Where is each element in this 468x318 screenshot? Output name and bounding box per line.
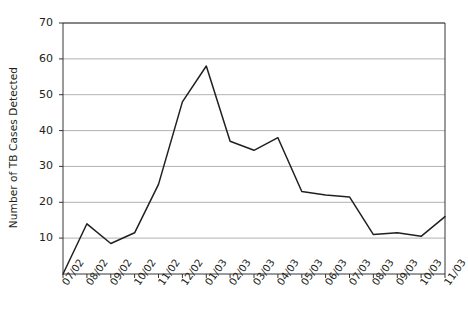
- y-tick-label-30: 30: [27, 160, 53, 172]
- y-tick-label-70: 70: [27, 17, 53, 29]
- data-series-line: [63, 66, 445, 274]
- y-tick-label-10: 10: [27, 232, 53, 244]
- series-polyline: [63, 66, 445, 274]
- gridlines-group: [63, 23, 445, 238]
- y-tick-label-40: 40: [27, 125, 53, 137]
- plot-frame: [59, 23, 445, 274]
- y-tick-label-50: 50: [27, 89, 53, 101]
- y-tick-label-20: 20: [27, 196, 53, 208]
- y-tick-label-60: 60: [27, 53, 53, 65]
